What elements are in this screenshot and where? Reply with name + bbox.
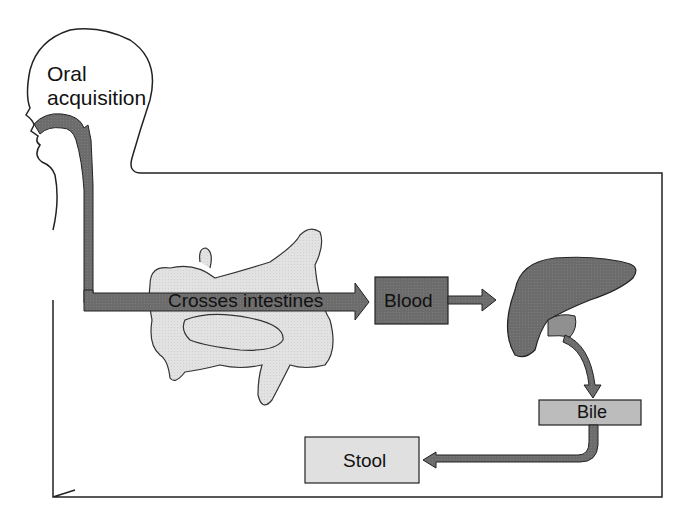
bile-label: Bile bbox=[577, 402, 607, 423]
intestines-illustration bbox=[149, 229, 333, 405]
oral-acquisition-label: Oral acquisition bbox=[47, 62, 146, 110]
stool-label: Stool bbox=[343, 450, 386, 472]
bile-to-stool-arrow bbox=[423, 425, 598, 468]
blood-label: Blood bbox=[384, 290, 433, 312]
label-line-acquisition: acquisition bbox=[47, 86, 146, 110]
esophagus bbox=[34, 114, 93, 303]
diagram-canvas: Oral acquisition Crosses intestines Bloo… bbox=[0, 0, 694, 515]
crosses-intestines-label: Crosses intestines bbox=[168, 290, 323, 312]
blood-to-liver-arrow bbox=[448, 289, 496, 311]
label-line-oral: Oral bbox=[47, 62, 146, 86]
liver-to-bile-arrow bbox=[563, 335, 601, 398]
